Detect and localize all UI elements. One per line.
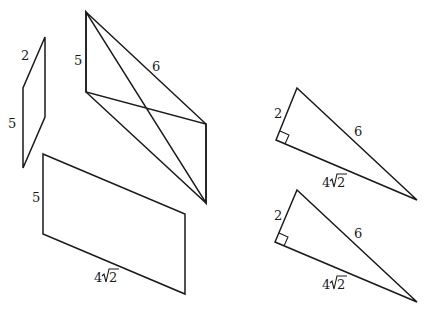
- right-triangle-top: 2 6 4 2: [274, 88, 417, 200]
- radicand: 2: [109, 270, 117, 285]
- small-parallelogram-short-label: 2: [21, 48, 29, 63]
- coefficient: 4: [322, 175, 330, 190]
- right-triangle-bottom: 2 6 4 2: [274, 190, 417, 302]
- right-triangle-top-long-label: 4 2: [322, 174, 347, 190]
- coefficient: 4: [322, 277, 330, 292]
- large-parallelogram-top: 5 6: [74, 12, 206, 203]
- geometry-diagram: 2 5 5 6 5 4 2 2 6 4 2 2 6: [0, 0, 441, 311]
- coefficient: 4: [94, 270, 102, 285]
- large-parallelogram-bottom-vertical-label: 5: [32, 190, 40, 205]
- small-parallelogram-long-label: 5: [8, 116, 16, 131]
- right-triangle-bottom-outline: [275, 190, 417, 302]
- radicand: 2: [337, 175, 345, 190]
- right-triangle-top-short-label: 2: [274, 106, 282, 121]
- right-triangle-top-hyp-label: 6: [354, 124, 362, 139]
- right-triangle-bottom-hyp-label: 6: [354, 226, 362, 241]
- right-triangle-bottom-long-label: 4 2: [322, 276, 347, 292]
- right-triangle-bottom-short-label: 2: [274, 208, 282, 223]
- radicand: 2: [337, 277, 345, 292]
- large-parallelogram-bottom-slant-label: 4 2: [94, 269, 119, 285]
- large-parallelogram-bottom: 5 4 2: [32, 154, 185, 294]
- large-parallelogram-top-slant-label: 6: [152, 59, 160, 74]
- right-triangle-top-outline: [276, 88, 417, 200]
- small-parallelogram: 2 5: [8, 37, 45, 168]
- large-parallelogram-top-vertical-label: 5: [74, 53, 82, 68]
